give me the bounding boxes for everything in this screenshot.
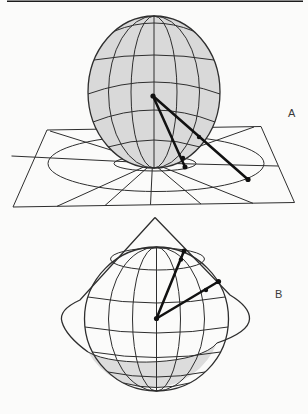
ray-a2-plane-point (245, 177, 250, 182)
label-b: B (275, 288, 282, 300)
cone (61, 218, 249, 363)
projection-rays-b (154, 249, 221, 322)
ray-b1-surface-point (179, 257, 183, 261)
globe-b-shaded-segment (88, 343, 217, 388)
ray-b2-surface-point (204, 288, 208, 292)
globe-a (88, 16, 220, 168)
ray-a1-plane-point (183, 165, 188, 170)
globe-a-center-point (150, 93, 155, 98)
ray-b2 (157, 282, 219, 319)
cone-left-side (61, 218, 155, 353)
diagram-b: B (61, 218, 282, 392)
diagram-a: A (12, 16, 297, 207)
cone-right-side (155, 218, 250, 344)
ray-b1-cone-point (182, 249, 187, 254)
ray-b2-cone-point (216, 279, 221, 284)
label-a: A (288, 107, 296, 119)
ray-a2-surface-point (197, 135, 201, 139)
ray-a1-surface-point (181, 156, 185, 160)
globe-b-center-point (154, 316, 159, 321)
figure-page: A (0, 0, 308, 414)
projection-diagram: A (0, 0, 308, 414)
